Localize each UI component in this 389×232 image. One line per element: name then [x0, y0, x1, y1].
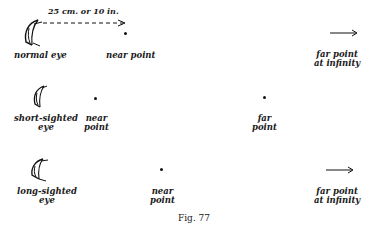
distance-label: 25 cm. or 10 in.: [48, 7, 119, 16]
far-point-dot: [263, 96, 266, 99]
eye-icon: [30, 84, 50, 110]
infinity-arrow-icon: [330, 30, 358, 36]
eye-label: normal eye: [14, 51, 67, 60]
near-point-dot: [94, 97, 97, 100]
eye-icon: [27, 157, 51, 183]
eye-label: short-sighted eye: [14, 114, 78, 132]
near-point-dot: [160, 168, 163, 171]
near-point-dot: [124, 32, 127, 35]
far-point-label: far point: [252, 114, 277, 132]
eye-label: long-sighted eye: [17, 187, 77, 205]
far-point-label: far point at infinity: [314, 187, 360, 205]
distance-arrow-icon: [43, 20, 127, 26]
far-point-label: far point at infinity: [314, 50, 360, 68]
near-point-label: near point: [150, 187, 175, 205]
near-point-label: near point: [106, 51, 155, 60]
near-point-label: near point: [84, 114, 109, 132]
figure-caption: Fig. 77: [178, 213, 210, 223]
infinity-arrow-icon: [326, 167, 354, 173]
eye-icon: [18, 18, 44, 48]
